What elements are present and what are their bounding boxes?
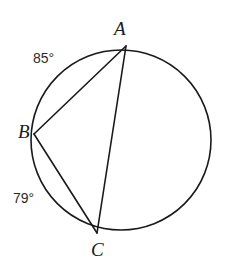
point-label-c: C xyxy=(91,240,104,259)
point-label-b: B xyxy=(18,122,30,141)
chord-ac xyxy=(97,46,126,233)
chord-bc xyxy=(34,134,97,233)
circle-diagram-canvas xyxy=(0,0,232,272)
arc-measure-bc: 79° xyxy=(13,191,34,205)
point-label-a: A xyxy=(114,19,126,38)
geometry-diagram: A B C 85° 79° xyxy=(0,0,232,272)
arc-measure-ab: 85° xyxy=(33,51,54,65)
